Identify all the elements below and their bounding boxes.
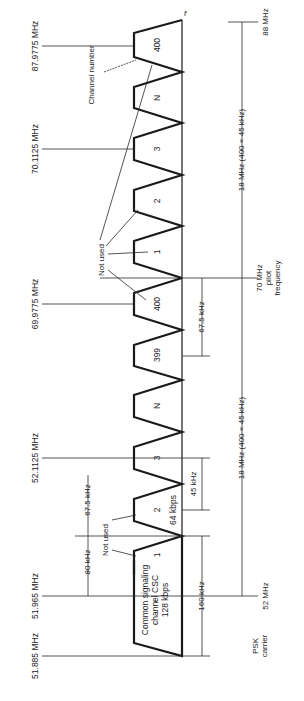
channel-label-lower-1: 1	[152, 552, 162, 557]
not-used-label-lower: Not used	[101, 524, 110, 556]
svg-text:400: 400	[152, 297, 162, 311]
svg-text:Channel number: Channel number	[87, 45, 96, 104]
axis-label-f: f	[184, 9, 187, 18]
freq-label-69-9775: 69.9775 MHz	[30, 279, 40, 330]
channel-label-upper-3: 3	[152, 146, 162, 151]
rate-64-kbps-label: 64 kbps	[168, 495, 178, 525]
svg-text:67.5 kHz: 67.5 kHz	[197, 301, 206, 333]
freq-label-52-1125: 52.1125 MHz	[30, 433, 40, 483]
svg-text:PSK: PSK	[251, 637, 260, 654]
svg-text:67.5 kHz: 67.5 kHz	[83, 484, 92, 516]
span-18-mhz-lower: 18 MHz (400 × 45 kHz)	[237, 396, 246, 479]
dim-45-khz: 45 kHz	[189, 472, 198, 497]
span-18-mhz-upper: 18 MHz (400 × 45 kHz)	[237, 108, 246, 191]
svg-text:2: 2	[152, 507, 162, 512]
svg-text:52.1125 MHz: 52.1125 MHz	[30, 433, 40, 483]
svg-text:128 kbps: 128 kbps	[160, 583, 170, 618]
svg-text:N: N	[152, 403, 162, 409]
svg-text:400: 400	[152, 38, 162, 52]
svg-text:51.885 MHz: 51.885 MHz	[30, 633, 40, 679]
marker-70-mhz-pilot: 70 MHz pilot frequency	[255, 260, 282, 295]
channel-label-lower-N: N	[152, 403, 162, 409]
spade-channel-allocation-diagram: f 400 N 3 2 1 400 399 N 3 2 1 87.9775 MH…	[0, 0, 304, 701]
svg-text:45 kHz: 45 kHz	[189, 472, 198, 497]
svg-text:88 MHz: 88 MHz	[261, 8, 270, 36]
svg-text:87.9775 MHz: 87.9775 MHz	[30, 21, 40, 72]
svg-text:carrier: carrier	[260, 634, 269, 657]
channel-label-upper-400: 400	[152, 38, 162, 52]
svg-text:18 MHz (400 × 45 kHz): 18 MHz (400 × 45 kHz)	[237, 396, 246, 479]
channel-label-upper-2: 2	[152, 198, 162, 203]
svg-text:frequency: frequency	[273, 260, 282, 295]
channel-label-upper-1: 1	[152, 249, 162, 254]
freq-label-87-9775: 87.9775 MHz	[30, 21, 40, 72]
channel-label-lower-2: 2	[152, 507, 162, 512]
svg-text:52 MHz: 52 MHz	[261, 582, 270, 610]
svg-text:channel CSC: channel CSC	[150, 575, 160, 625]
channel-label-upper-N: N	[152, 95, 162, 101]
csc-label: Common signaling channel CSC 128 kbps	[140, 565, 170, 636]
svg-text:64 kbps: 64 kbps	[168, 495, 178, 525]
svg-text:1: 1	[152, 552, 162, 557]
svg-text:Common signaling: Common signaling	[140, 565, 150, 636]
channel-label-lower-400: 400	[152, 297, 162, 311]
marker-psk-carrier: PSK carrier	[251, 634, 269, 657]
freq-label-51-965: 51.965 MHz	[30, 573, 40, 619]
svg-text:Not used: Not used	[101, 524, 110, 556]
marker-88-mhz: 88 MHz	[261, 8, 270, 36]
freq-label-70-1125: 70.1125 MHz	[30, 124, 40, 174]
dim-67-5-khz-left: 67.5 kHz	[83, 484, 92, 516]
dim-67-5-khz-right: 67.5 kHz	[197, 301, 206, 333]
svg-text:70 MHz: 70 MHz	[255, 264, 264, 292]
not-used-label-upper: Not used	[97, 244, 106, 276]
dim-80-khz: 80 kHz	[83, 550, 92, 575]
svg-text:N: N	[152, 95, 162, 101]
svg-text:2: 2	[152, 198, 162, 203]
lower-channel-spectrum	[134, 278, 182, 575]
svg-text:80 kHz: 80 kHz	[83, 550, 92, 575]
channel-label-lower-399: 399	[152, 348, 162, 362]
freq-label-51-885: 51.885 MHz	[30, 633, 40, 679]
svg-text:1: 1	[152, 249, 162, 254]
svg-text:51.965 MHz: 51.965 MHz	[30, 573, 40, 619]
svg-text:70.1125 MHz: 70.1125 MHz	[30, 124, 40, 174]
svg-text:Not used: Not used	[97, 244, 106, 276]
svg-text:69.9775 MHz: 69.9775 MHz	[30, 279, 40, 330]
marker-52-mhz: 52 MHz	[261, 582, 270, 610]
svg-text:18 MHz (400 × 45 kHz): 18 MHz (400 × 45 kHz)	[237, 108, 246, 191]
svg-text:399: 399	[152, 348, 162, 362]
svg-text:pilot: pilot	[264, 270, 273, 285]
channel-number-label: Channel number	[87, 45, 96, 104]
svg-text:3: 3	[152, 146, 162, 151]
